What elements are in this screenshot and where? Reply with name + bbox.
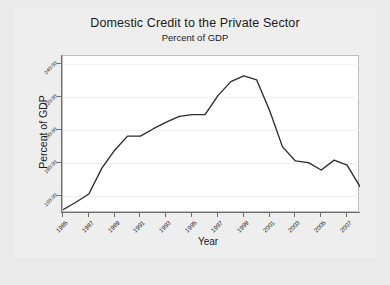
plot-area [62, 55, 359, 212]
chart-page: Domestic Credit to the Private Sector Pe… [0, 0, 390, 285]
x-tick [114, 213, 115, 217]
gridlines [63, 64, 360, 196]
title-block: Domestic Credit to the Private Sector Pe… [14, 16, 376, 44]
x-tick [346, 213, 347, 217]
y-axis-line [61, 55, 62, 213]
x-tick [139, 213, 140, 217]
x-tick [62, 213, 63, 217]
x-tick [269, 213, 270, 217]
y-tick-label: 160.00 [24, 192, 58, 226]
chart-subtitle: Percent of GDP [14, 31, 376, 44]
x-tick [243, 213, 244, 217]
chart-title: Domestic Credit to the Private Sector [14, 16, 376, 31]
x-tick [191, 213, 192, 217]
data-line-svg [63, 56, 360, 213]
x-tick [165, 213, 166, 217]
graph-region: Domestic Credit to the Private Sector Pe… [14, 8, 376, 258]
series-line [63, 76, 360, 210]
x-tick [320, 213, 321, 217]
x-tick [294, 213, 295, 217]
x-tick [88, 213, 89, 217]
x-tick [217, 213, 218, 217]
x-axis-line [61, 212, 360, 213]
